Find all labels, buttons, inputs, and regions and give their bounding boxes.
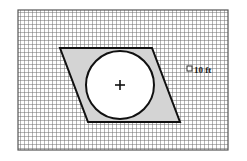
geometry-diagram-svg: 10 ft xyxy=(0,0,247,161)
geometry-figure-container: 10 ft xyxy=(0,0,247,161)
scale-label-text: 10 ft xyxy=(194,65,211,75)
scale-marker-square xyxy=(187,66,192,71)
